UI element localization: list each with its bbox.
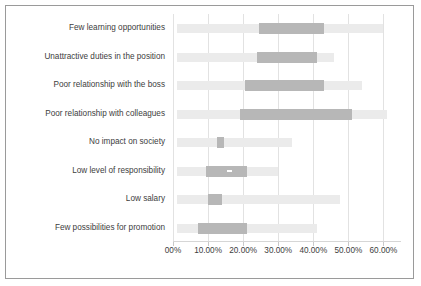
interquartile-box	[257, 52, 317, 63]
category-label: Few possibilities for promotion	[5, 223, 165, 233]
chart-plot-wrapper: Few learning opportunitiesUnattractive d…	[6, 6, 415, 280]
category-label: Poor relationship with colleagues	[5, 109, 165, 119]
box-plot-row	[173, 72, 401, 98]
interquartile-box	[259, 23, 324, 34]
box-plot-row	[173, 186, 401, 212]
median-line	[227, 170, 232, 172]
plot-canvas	[173, 14, 401, 242]
whisker-range	[177, 195, 340, 204]
interquartile-box	[240, 109, 352, 120]
category-label: Poor relationship with the boss	[5, 80, 165, 90]
box-plot-row	[173, 129, 401, 155]
interquartile-box	[208, 194, 222, 205]
interquartile-box	[217, 137, 224, 148]
box-plot-row	[173, 215, 401, 241]
value-axis-labels: 00%10.00%20.00%30.00%40.00%50.00%60.00%	[173, 246, 401, 260]
whisker-range	[177, 138, 293, 147]
box-plot-row	[173, 15, 401, 41]
value-axis-tick-label: 00%	[165, 246, 181, 255]
box-plot-row	[173, 158, 401, 184]
value-axis-tick-label: 30.00%	[264, 246, 292, 255]
chart-frame: Few learning opportunitiesUnattractive d…	[5, 5, 414, 279]
category-label: Low level of responsibility	[5, 166, 165, 176]
box-plot-row	[173, 101, 401, 127]
value-axis-tick-label: 10.00%	[194, 246, 222, 255]
value-axis-tick-label: 60.00%	[370, 246, 398, 255]
category-label: No impact on society	[5, 137, 165, 147]
value-axis-line	[173, 241, 401, 242]
category-axis-labels: Few learning opportunitiesUnattractive d…	[6, 14, 169, 242]
category-label: Unattractive duties in the position	[5, 52, 165, 62]
interquartile-box	[245, 80, 324, 91]
value-axis-tick-label: 40.00%	[299, 246, 327, 255]
category-label: Low salary	[5, 194, 165, 204]
value-axis-tick-label: 50.00%	[334, 246, 362, 255]
interquartile-box	[198, 223, 247, 234]
category-label: Few learning opportunities	[5, 23, 165, 33]
value-axis-tick-label: 20.00%	[229, 246, 257, 255]
box-plot-row	[173, 44, 401, 70]
